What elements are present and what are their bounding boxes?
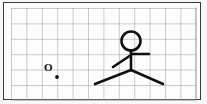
origin-dot <box>55 75 59 79</box>
grid-layer <box>11 8 196 100</box>
diagram-canvas: O <box>0 0 207 104</box>
origin-label: O <box>44 62 53 73</box>
diagram-graphics <box>0 0 207 104</box>
grid-fill <box>11 8 196 100</box>
